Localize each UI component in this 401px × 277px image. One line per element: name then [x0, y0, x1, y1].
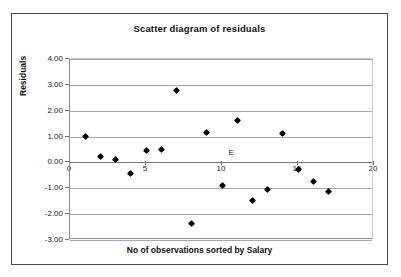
y-tick-label: 3.00 [23, 79, 63, 88]
y-tick-label: -3.00 [23, 235, 63, 244]
scatter-point [188, 220, 195, 227]
gridline-y [70, 214, 372, 215]
x-tick-mark [373, 161, 374, 165]
scatter-point [294, 166, 301, 173]
scatter-point [158, 146, 165, 153]
scatter-point [127, 170, 134, 177]
scatter-point [203, 129, 210, 136]
scatter-point [97, 153, 104, 160]
y-tick-label: 4.00 [23, 54, 63, 63]
gridline-y [70, 85, 372, 86]
gridline-y [70, 240, 372, 241]
plot-area: E [69, 58, 373, 239]
gridline-y [70, 111, 372, 112]
y-tick-label: -1.00 [23, 183, 63, 192]
scatter-point [249, 197, 256, 204]
chart-title: Scatter diagram of residuals [12, 23, 387, 34]
y-tick-label: 2.00 [23, 105, 63, 114]
y-tick-mark [65, 239, 69, 240]
chart-frame: Scatter diagram of residuals Residuals N… [11, 13, 388, 265]
gridline-y [70, 137, 372, 138]
series-label-e: E [228, 147, 233, 156]
scatter-point [82, 133, 89, 140]
y-tick-label: -2.00 [23, 209, 63, 218]
scatter-point [264, 186, 271, 193]
scatter-point [173, 87, 180, 94]
scatter-point [234, 117, 241, 124]
y-tick-label: 0.00 [23, 157, 63, 166]
y-tick-label: 1.00 [23, 131, 63, 140]
gridline-y [70, 59, 372, 60]
scatter-point [142, 147, 149, 154]
x-axis-title: No of observations sorted by Salary [12, 245, 387, 255]
scatter-point [325, 188, 332, 195]
scatter-point [310, 177, 317, 184]
